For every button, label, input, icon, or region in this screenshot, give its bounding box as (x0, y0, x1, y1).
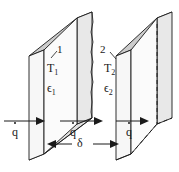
plate-2-leader-line (110, 52, 116, 59)
plate-2-far-face (157, 12, 172, 124)
flux-left-symbol: q (12, 126, 18, 138)
gap-dimension-label: δ (77, 137, 83, 149)
flux-left-dot-icon (14, 122, 16, 124)
flux-right-text: q (126, 125, 132, 139)
plate-1-far-face (77, 12, 92, 124)
heat-transfer-figure: 1 T1 ϵ1 2 T2 ϵ2 q q q δ (0, 0, 179, 172)
flux-right-symbol: q (126, 126, 132, 138)
plate-1-emissivity-label: ϵ1 (47, 82, 56, 97)
plate-2-temperature-label: T2 (104, 62, 115, 77)
flux-left-text: q (12, 125, 18, 139)
flux-right-dot-icon (128, 122, 130, 124)
plate-2-emissivity-label: ϵ2 (104, 82, 113, 97)
flux-middle-symbol: q (70, 126, 76, 138)
plate-2-geometry (116, 12, 172, 160)
plate-2-temperature-subscript: 2 (111, 68, 115, 77)
plate-1-edge-strip (29, 50, 44, 160)
flux-middle-text: q (70, 125, 76, 139)
plate-1-temperature-subscript: 1 (54, 68, 58, 77)
figure-drawing (0, 0, 179, 172)
flux-label-right: q (126, 126, 132, 138)
plate-1-emissivity-subscript: 1 (52, 88, 56, 97)
plate-1-temperature-label: T1 (47, 62, 58, 77)
plate-1-number-label: 1 (57, 44, 63, 55)
flux-label-middle: q (70, 126, 76, 138)
plate-2-number-label: 2 (100, 44, 106, 55)
plate-2-edge-strip (116, 50, 131, 160)
plate-2-emissivity-subscript: 2 (109, 88, 113, 97)
flux-label-left: q (12, 126, 18, 138)
plate-1-geometry (29, 12, 93, 160)
flux-middle-dot-icon (72, 122, 74, 124)
